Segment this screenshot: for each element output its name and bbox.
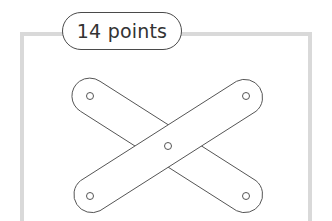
hole-bottom-left xyxy=(87,193,94,200)
points-label-text: 14 points xyxy=(77,20,167,42)
hole-bottom-right xyxy=(243,193,250,200)
hole-center-pivot xyxy=(165,143,172,150)
hole-top-left xyxy=(87,93,94,100)
points-label: 14 points xyxy=(62,12,182,50)
hole-top-right xyxy=(243,93,250,100)
